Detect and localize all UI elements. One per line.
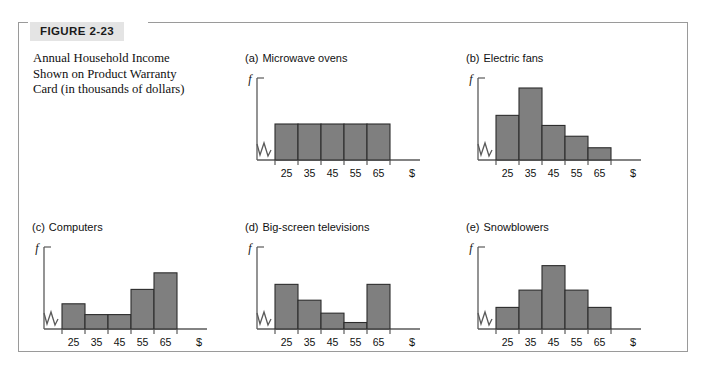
- panel-e-tag: (e): [466, 221, 479, 233]
- bar-55: [565, 290, 588, 329]
- x-tick-label-25: 25: [68, 336, 80, 348]
- svg-text:f: f: [248, 72, 253, 86]
- x-tick-label-35: 35: [304, 336, 316, 348]
- x-tick-label-45: 45: [114, 336, 126, 348]
- x-tick-label-45: 45: [327, 167, 339, 179]
- x-axis-label: $: [409, 167, 415, 179]
- x-tick-label-45: 45: [327, 336, 339, 348]
- panel-d-tag: (d): [245, 221, 258, 233]
- x-tick-label-65: 65: [160, 336, 172, 348]
- bar-25: [496, 307, 519, 329]
- x-tick-label-35: 35: [525, 167, 537, 179]
- x-axis-label: $: [630, 167, 636, 179]
- x-tick-label-55: 55: [571, 336, 583, 348]
- x-tick-label-55: 55: [350, 167, 362, 179]
- caption-line-2: Shown on Product Warranty: [33, 67, 233, 83]
- figure-number-label: FIGURE 2-23: [30, 22, 124, 41]
- x-axis-label: $: [409, 336, 415, 348]
- x-tick-label-25: 25: [502, 167, 514, 179]
- panel-c-title: (c)Computers: [32, 221, 103, 233]
- bar-65: [588, 307, 611, 329]
- bar-25: [275, 284, 298, 329]
- svg-text:f: f: [469, 72, 474, 86]
- bar-25: [62, 304, 85, 329]
- bar-55: [131, 289, 154, 329]
- bar-45: [542, 266, 565, 329]
- figure-caption: Annual Household Income Shown on Product…: [33, 51, 233, 98]
- x-tick-label-55: 55: [350, 336, 362, 348]
- panel-b-title-text: Electric fans: [483, 52, 543, 64]
- panel-e-title: (e)Snowblowers: [466, 221, 549, 233]
- panel-c-plot: f2535455565$: [32, 239, 207, 351]
- caption-line-1: Annual Household Income: [33, 51, 233, 67]
- bar-65: [367, 124, 390, 160]
- x-tick-label-35: 35: [525, 336, 537, 348]
- x-tick-label-65: 65: [373, 167, 385, 179]
- panel-a-tag: (a): [245, 52, 258, 64]
- bar-35: [298, 300, 321, 329]
- bar-25: [275, 124, 298, 160]
- bar-45: [321, 313, 344, 329]
- panel-d-title-text: Big-screen televisions: [262, 221, 369, 233]
- bar-45: [542, 125, 565, 160]
- bar-45: [108, 315, 131, 329]
- x-tick-label-65: 65: [594, 336, 606, 348]
- bar-35: [519, 88, 542, 160]
- x-tick-label-25: 25: [502, 336, 514, 348]
- panel-b-title: (b)Electric fans: [466, 52, 543, 64]
- panel-a-title: (a)Microwave ovens: [245, 52, 347, 64]
- x-axis-label: $: [630, 336, 636, 348]
- bar-55: [344, 323, 367, 329]
- bar-65: [588, 148, 611, 160]
- panel-c-title-text: Computers: [49, 221, 103, 233]
- x-tick-label-55: 55: [571, 167, 583, 179]
- panel-b-plot: f2535455565$: [466, 70, 641, 182]
- bar-65: [367, 284, 390, 329]
- x-tick-label-65: 65: [373, 336, 385, 348]
- x-tick-label-35: 35: [91, 336, 103, 348]
- bar-35: [519, 290, 542, 329]
- bar-35: [298, 124, 321, 160]
- svg-text:f: f: [248, 241, 253, 255]
- svg-text:f: f: [469, 241, 474, 255]
- panel-a-plot: f2535455565$: [245, 70, 420, 182]
- x-tick-label-25: 25: [281, 336, 293, 348]
- x-tick-label-35: 35: [304, 167, 316, 179]
- x-tick-label-55: 55: [137, 336, 149, 348]
- bar-25: [496, 115, 519, 160]
- panel-d-title: (d)Big-screen televisions: [245, 221, 369, 233]
- bar-35: [85, 315, 108, 329]
- bar-65: [154, 273, 177, 329]
- panel-b-tag: (b): [466, 52, 479, 64]
- figure-page: FIGURE 2-23 Annual Household Income Show…: [0, 0, 708, 383]
- panel-c-tag: (c): [32, 221, 45, 233]
- svg-text:f: f: [35, 241, 40, 255]
- caption-line-3: Card (in thousands of dollars): [33, 82, 233, 98]
- bar-55: [565, 136, 588, 160]
- panel-d-plot: f2535455565$: [245, 239, 420, 351]
- x-tick-label-25: 25: [281, 167, 293, 179]
- panel-a-title-text: Microwave ovens: [262, 52, 347, 64]
- x-tick-label-45: 45: [548, 167, 560, 179]
- x-axis-label: $: [196, 336, 202, 348]
- bar-45: [321, 124, 344, 160]
- x-tick-label-45: 45: [548, 336, 560, 348]
- bar-55: [344, 124, 367, 160]
- panel-e-title-text: Snowblowers: [483, 221, 548, 233]
- x-tick-label-65: 65: [594, 167, 606, 179]
- panel-e-plot: f2535455565$: [466, 239, 641, 351]
